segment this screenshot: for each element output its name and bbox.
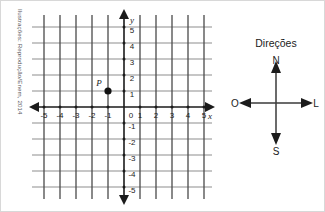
- x-tick-label: -2: [88, 111, 96, 120]
- y-axis-name: y: [129, 15, 134, 25]
- y-tick-label: -3: [128, 154, 136, 163]
- y-axis-negative-tick-labels: -1 -2 -3 -4 -5: [128, 122, 136, 195]
- y-tick-label: 5: [130, 26, 135, 35]
- cartesian-plane-svg: -5 -4 -3 -2 -1 0 1 2 3 4 5 5 4 3 2 1: [27, 7, 217, 207]
- compass-label-south: S: [273, 146, 280, 155]
- plotted-point-p-label: P: [95, 78, 102, 88]
- compass-rose: N S O L: [229, 51, 323, 155]
- compass-label-east: L: [313, 98, 319, 109]
- x-tick-label: 3: [170, 111, 175, 120]
- compass-rose-svg: N S O L: [229, 51, 323, 155]
- compass-figure: Direções N S O L: [229, 37, 323, 157]
- compass-east-arrow: [301, 98, 313, 108]
- y-axis-positive-tick-labels: 5 4 3 2 1: [130, 26, 135, 99]
- y-axis-arrow-down: [119, 195, 129, 205]
- y-tick-label: 1: [130, 90, 135, 99]
- x-tick-label: 4: [186, 111, 191, 120]
- x-tick-label: 5: [202, 111, 207, 120]
- cartesian-plane: -5 -4 -3 -2 -1 0 1 2 3 4 5 5 4 3 2 1: [27, 7, 217, 207]
- compass-title: Direções: [229, 37, 323, 49]
- y-tick-label: -5: [128, 186, 136, 195]
- x-tick-label: -4: [56, 111, 64, 120]
- source-credit-text: Ilustrações: Reprodução/Enem, 2014: [14, 9, 26, 129]
- x-axis-arrow-left: [29, 102, 39, 112]
- compass-label-north: N: [272, 55, 279, 66]
- y-tick-label: 4: [130, 42, 135, 51]
- y-tick-label: -1: [128, 122, 136, 131]
- x-tick-label: 2: [154, 111, 159, 120]
- y-tick-label: -4: [128, 170, 136, 179]
- x-tick-label: 1: [138, 111, 143, 120]
- x-tick-label: -5: [40, 111, 48, 120]
- y-tick-label: 2: [130, 74, 135, 83]
- y-tick-label: 3: [130, 58, 135, 67]
- y-tick-label: -2: [128, 138, 136, 147]
- x-tick-label: -1: [104, 111, 112, 120]
- compass-west-arrow: [239, 98, 251, 108]
- plotted-point-p: [104, 87, 111, 94]
- y-axis-arrow-up: [119, 9, 129, 19]
- x-tick-label: 0: [129, 111, 134, 120]
- x-tick-label: -3: [72, 111, 80, 120]
- x-axis-name: x: [207, 111, 212, 121]
- compass-south-arrow: [271, 133, 281, 145]
- compass-label-west: O: [231, 98, 239, 109]
- figure-canvas: Ilustrações: Reprodução/Enem, 2014: [0, 0, 325, 212]
